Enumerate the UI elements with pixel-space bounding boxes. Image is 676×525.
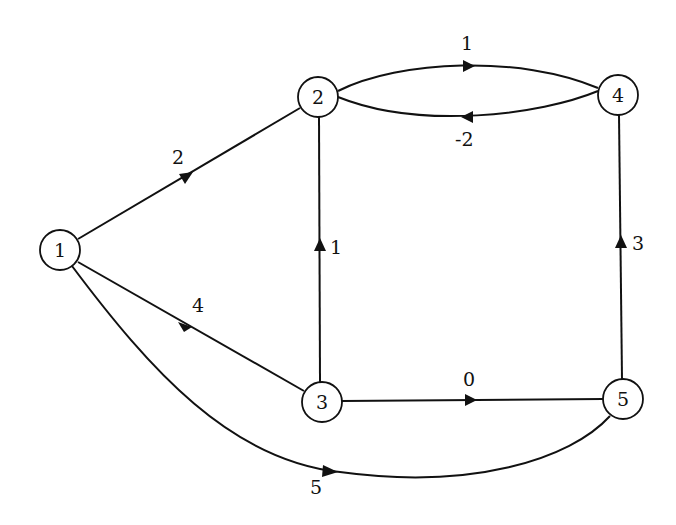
edge-weight: 4 xyxy=(192,294,204,316)
node-1: 1 xyxy=(40,230,80,270)
arrow-icon xyxy=(463,60,475,72)
edge-3-5: 0 xyxy=(342,368,603,406)
edge-1-5: 5 xyxy=(72,266,610,498)
arrow-icon xyxy=(322,465,338,477)
edge-weight: 2 xyxy=(172,146,184,168)
node-label: 3 xyxy=(316,391,328,413)
arrow-icon xyxy=(461,111,473,123)
node-4: 4 xyxy=(598,75,638,115)
edge-weight: 5 xyxy=(310,476,322,498)
node-label: 5 xyxy=(617,388,629,410)
edge-2-4: 1 xyxy=(338,32,598,91)
edge-weight: 0 xyxy=(463,368,475,390)
edge-weight: -2 xyxy=(455,128,474,150)
edge-weight: 1 xyxy=(330,236,342,258)
arrow-icon xyxy=(465,394,477,406)
edge-3-2: 1 xyxy=(314,117,342,382)
arrow-icon xyxy=(314,238,326,251)
arrow-icon xyxy=(615,235,627,248)
node-3: 3 xyxy=(302,382,342,422)
edge-4-2: -2 xyxy=(338,91,598,150)
edge-5-4: 3 xyxy=(615,115,644,379)
node-label: 4 xyxy=(612,84,624,106)
edge-weight: 1 xyxy=(461,32,473,54)
node-5: 5 xyxy=(603,379,643,419)
graph-canvas: 2 4 5 1 -2 1 0 3 1 xyxy=(0,0,676,525)
edge-weight: 3 xyxy=(632,232,644,254)
edge-1-2: 2 xyxy=(78,108,300,239)
node-label: 2 xyxy=(312,86,324,108)
edge-1-3: 4 xyxy=(78,262,304,391)
node-label: 1 xyxy=(54,239,66,261)
node-2: 2 xyxy=(298,77,338,117)
